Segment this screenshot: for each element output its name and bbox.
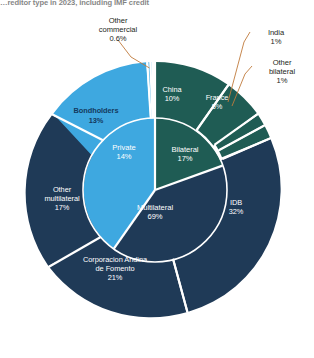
outer-label-caf-line1: Corporacion Andina bbox=[83, 255, 148, 264]
pie-chart-figure: …reditor type in 2023, including IMF cre… bbox=[0, 0, 314, 358]
outer-label-bondholders-name: Bondholders bbox=[73, 106, 118, 115]
outer-label-china-value: 10% bbox=[165, 94, 180, 103]
outer-label-other-multilateral-line2: multilateral bbox=[44, 194, 80, 203]
outer-label-idb-value: 32% bbox=[229, 207, 244, 216]
callout-india-value: 1% bbox=[252, 37, 300, 46]
outer-label-idb-name: IDB bbox=[230, 198, 242, 207]
callout-india-line1: India bbox=[252, 28, 300, 37]
outer-label-china-name: China bbox=[162, 85, 182, 94]
outer-label-caf-value: 21% bbox=[108, 273, 123, 282]
inner-label-bilateral-name: Bilateral bbox=[172, 145, 199, 154]
inner-ring bbox=[83, 118, 227, 262]
inner-label-multilateral-name: Multilateral bbox=[137, 203, 173, 212]
outer-label-caf-line2: de Fomento bbox=[96, 264, 135, 273]
outer-label-other-multilateral-value: 17% bbox=[55, 203, 70, 212]
outer-label-france-value: 5% bbox=[212, 102, 223, 111]
callout-other-commercial: Other commercial 0.6% bbox=[82, 16, 154, 44]
outer-label-other-multilateral-line1: Other bbox=[53, 185, 72, 194]
callout-other-commercial-value: 0.6% bbox=[82, 34, 154, 43]
callout-other-bilateral-line1: Other bbox=[254, 58, 310, 67]
callout-other-bilateral-line2: bilateral bbox=[254, 67, 310, 76]
callout-other-bilateral: Other bilateral 1% bbox=[254, 58, 310, 86]
callout-india: India 1% bbox=[252, 28, 300, 46]
inner-label-multilateral-value: 69% bbox=[147, 212, 162, 221]
inner-label-private-value: 14% bbox=[116, 152, 131, 161]
outer-label-bondholders-value: 13% bbox=[89, 116, 104, 125]
callout-other-commercial-line2: commercial bbox=[82, 25, 154, 34]
nested-donut-chart: Bilateral 17% Multilateral 69% Private 1… bbox=[0, 0, 314, 358]
outer-label-france-name: France bbox=[206, 93, 229, 102]
callout-other-commercial-line1: Other bbox=[82, 16, 154, 25]
inner-label-private-name: Private bbox=[112, 143, 135, 152]
callout-other-bilateral-value: 1% bbox=[254, 76, 310, 85]
inner-label-bilateral-value: 17% bbox=[177, 154, 192, 163]
